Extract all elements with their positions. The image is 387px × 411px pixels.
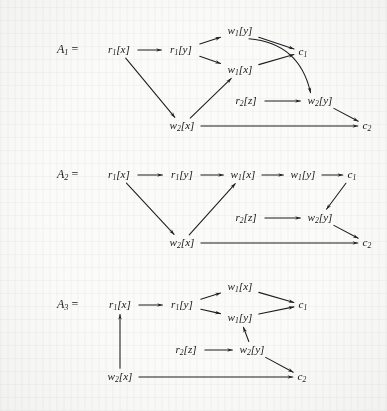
node-A3-w1y: w1[y]: [228, 311, 253, 325]
edge-A2-w2x-to-w1x: [189, 184, 235, 235]
edge-A3-w2y-to-c2: [266, 357, 294, 372]
figure-page: r1[x]r1[y]w1[y]w1[x]c1r2[z]w2[y]w2[x]c2r…: [0, 0, 387, 411]
edge-line: [190, 78, 231, 118]
edge-A3-r1y-to-w1x: [201, 293, 221, 299]
conflict-graphs-figure: r1[x]r1[y]w1[y]w1[x]c1r2[z]w2[y]w2[x]c2r…: [0, 0, 387, 411]
edge-line: [334, 108, 358, 121]
edge-A2-w2y-to-c2: [334, 225, 358, 238]
edge-line: [266, 357, 294, 372]
edge-A1-w1x-to-c1: [259, 54, 294, 64]
edge-line: [334, 225, 358, 238]
edge-A2-w2x-to-c2: [201, 241, 358, 245]
edge-A3-w2x-to-c2: [139, 375, 293, 379]
edge-line: [259, 307, 294, 314]
edge-A3-r1y-to-w1y: [201, 309, 221, 314]
edge-A1-r1y-to-w1x: [200, 56, 221, 63]
edge-line: [126, 183, 174, 234]
node-A2-c2: c2: [363, 236, 372, 250]
node-A3-c2: c2: [298, 370, 307, 384]
edges-layer: [118, 37, 358, 379]
edge-A1-w2x-to-w1x: [190, 78, 231, 118]
edge-A1-r1x-to-w2x: [126, 58, 175, 117]
node-A1-w1y: w1[y]: [228, 24, 253, 38]
edge-A2-r1y-to-w1x: [201, 173, 223, 177]
edge-line: [327, 183, 346, 209]
node-A3-r2z: r2[z]: [175, 343, 196, 357]
node-A3-w1x: w1[x]: [228, 280, 253, 294]
edge-A2-r1x-to-r1y: [138, 173, 162, 177]
node-A3-w2y: w2[y]: [240, 343, 265, 357]
edge-A3-w1x-to-c1: [259, 292, 294, 302]
node-A1-r1x: r1[x]: [108, 43, 130, 57]
edge-A1-r1x-to-r1y: [138, 48, 161, 52]
edge-A3-r1x-to-r1y: [139, 303, 162, 307]
edge-A3-w2x-to-r1x: [118, 314, 122, 368]
node-A2-c1: c1: [348, 168, 357, 182]
edge-A2-w1y-to-c1: [322, 173, 343, 177]
edge-line: [189, 184, 235, 235]
group-labels-layer: A1=A2=A3=: [56, 42, 78, 312]
node-A2-r1y: r1[y]: [171, 168, 193, 182]
edge-A1-w1y-to-c1: [259, 37, 294, 49]
edge-line: [126, 58, 175, 117]
edge-A3-r2z-to-w2y: [205, 348, 232, 352]
node-A3-r1x: r1[x]: [109, 298, 131, 312]
node-A2-r1x: r1[x]: [108, 168, 130, 182]
graph-label-A2: A2=: [56, 167, 78, 182]
edge-line: [259, 37, 294, 49]
edge-A2-w1x-to-w1y: [262, 173, 283, 177]
node-A3-c1: c1: [299, 298, 308, 312]
node-A1-c1: c1: [299, 45, 308, 59]
edge-A1-r1y-to-w1y: [200, 37, 221, 44]
graph-label-A1: A1=: [56, 42, 78, 57]
graph-label-A3: A3=: [56, 297, 78, 312]
node-A2-w1x: w1[x]: [231, 168, 256, 182]
nodes-layer: r1[x]r1[y]w1[y]w1[x]c1r2[z]w2[y]w2[x]c2r…: [108, 24, 372, 384]
edge-A2-c1-to-w2y: [327, 183, 346, 209]
edge-line: [259, 55, 294, 65]
node-A3-w2x: w2[x]: [108, 370, 133, 384]
edge-A3-w2y-to-w1y: [243, 327, 248, 341]
node-A2-w1y: w1[y]: [291, 168, 316, 182]
edge-A2-r1x-to-w2x: [126, 183, 174, 234]
node-A1-r1y: r1[y]: [170, 43, 192, 57]
node-A2-w2y: w2[y]: [308, 211, 333, 225]
edge-A1-w2y-to-c2: [334, 108, 358, 121]
node-A3-r1y: r1[y]: [171, 298, 193, 312]
node-A1-w2y: w2[y]: [308, 94, 333, 108]
edge-A1-w2x-to-c2: [201, 124, 358, 128]
edge-A1-r2z-to-w2y: [265, 99, 300, 103]
edge-line: [259, 292, 294, 302]
node-A2-w2x: w2[x]: [170, 236, 195, 250]
node-A1-w2x: w2[x]: [170, 119, 195, 133]
node-A1-r2z: r2[z]: [235, 94, 256, 108]
node-A1-c2: c2: [363, 119, 372, 133]
edge-A2-r2z-to-w2y: [265, 216, 300, 220]
node-A2-r2z: r2[z]: [235, 211, 256, 225]
node-A1-w1x: w1[x]: [228, 63, 253, 77]
edge-A3-w1y-to-c1: [259, 306, 294, 314]
